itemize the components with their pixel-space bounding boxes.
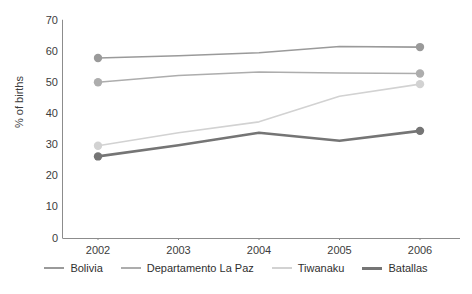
x-tick-label: 2003 [166, 244, 190, 256]
legend-item-bolivia[interactable]: Bolivia [44, 262, 102, 274]
data-point-marker [94, 152, 102, 160]
legend-line-swatch-icon [272, 267, 292, 269]
line-chart-svg [62, 18, 460, 240]
x-tick-label: 2002 [86, 244, 110, 256]
y-axis-tick-labels: 706050403020100 [30, 18, 58, 240]
data-point-marker [416, 127, 424, 135]
y-tick-label: 0 [32, 233, 58, 244]
y-tick-label: 40 [32, 108, 58, 119]
data-point-marker [416, 69, 424, 77]
y-tick-label: 60 [32, 46, 58, 57]
data-point-marker [94, 78, 102, 86]
plot-area [62, 18, 460, 240]
x-tick-label: 2006 [408, 244, 432, 256]
legend-item-label: Batallas [388, 262, 427, 274]
legend-line-swatch-icon [121, 267, 141, 269]
data-point-marker [94, 54, 102, 62]
legend-item-label: Departamento La Paz [147, 262, 254, 274]
legend-item-label: Tiwanaku [298, 262, 345, 274]
y-tick-label: 50 [32, 77, 58, 88]
y-tick-label: 20 [32, 170, 58, 181]
x-axis-tick-labels: 20022003200420052006 [62, 244, 460, 260]
legend-item-departamento-la-paz[interactable]: Departamento La Paz [121, 262, 254, 274]
chart-root: % of births 706050403020100 200220032004… [0, 0, 472, 294]
data-point-marker [416, 43, 424, 51]
x-tick-label: 2004 [247, 244, 271, 256]
series-line-batallas [94, 127, 424, 161]
y-tick-label: 30 [32, 139, 58, 150]
legend-item-label: Bolivia [70, 262, 102, 274]
chart-legend: BoliviaDepartamento La PazTiwanakuBatall… [0, 262, 472, 274]
legend-line-swatch-icon [362, 267, 382, 270]
y-axis-label: % of births [13, 62, 25, 142]
series-line-tiwanaku [94, 80, 424, 150]
series-line-bolivia [94, 43, 424, 62]
data-point-marker [94, 142, 102, 150]
y-tick-label: 70 [32, 15, 58, 26]
legend-item-tiwanaku[interactable]: Tiwanaku [272, 262, 345, 274]
data-point-marker [416, 80, 424, 88]
legend-line-swatch-icon [44, 267, 64, 269]
x-tick-label: 2005 [327, 244, 351, 256]
legend-item-batallas[interactable]: Batallas [362, 262, 427, 274]
y-tick-label: 10 [32, 201, 58, 212]
series-line-departamento-la-paz [94, 69, 424, 86]
